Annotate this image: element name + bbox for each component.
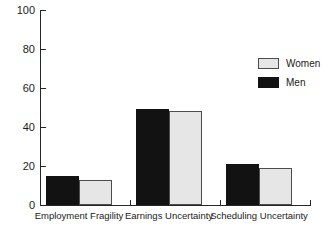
y-tick-label-20: 20 [1, 161, 35, 172]
y-tick-label-40: 40 [1, 122, 35, 133]
y-tick-100 [41, 10, 46, 11]
legend-swatch-men-icon [258, 77, 279, 88]
y-tick-40 [41, 127, 46, 128]
x-label-scheduling-uncertainty: Scheduling Uncertainty [207, 210, 311, 221]
x-label-employment-fragility: Employment Fragility [29, 210, 129, 221]
bar-men-scheduling-uncertainty [226, 164, 259, 205]
bar-men-earnings-uncertainty [136, 109, 169, 205]
bar-women-employment-fragility [79, 180, 112, 205]
bar-women-earnings-uncertainty [169, 111, 202, 205]
x-tick-group-divider-2 [220, 200, 221, 205]
bar-chart: 100 80 60 40 20 0 Employment Fragility E… [0, 0, 335, 235]
y-tick-60 [41, 88, 46, 89]
legend-item-women: Women [258, 56, 320, 71]
y-axis-line [40, 10, 41, 206]
legend-label-men: Men [286, 77, 305, 88]
y-tick-label-80: 80 [1, 44, 35, 55]
legend: Women Men [258, 56, 320, 94]
legend-label-women: Women [286, 58, 320, 69]
bar-women-scheduling-uncertainty [259, 168, 292, 205]
legend-swatch-women-icon [258, 58, 279, 69]
x-axis-end-cap [310, 200, 311, 206]
y-tick-20 [41, 166, 46, 167]
x-tick-group-divider-1 [130, 200, 131, 205]
y-tick-80 [41, 49, 46, 50]
x-label-earnings-uncertainty: Earnings Uncertainty [119, 210, 219, 221]
y-tick-label-100: 100 [1, 5, 35, 16]
legend-item-men: Men [258, 75, 320, 90]
bar-men-employment-fragility [46, 176, 79, 205]
y-tick-label-60: 60 [1, 83, 35, 94]
x-axis-line [40, 205, 311, 206]
